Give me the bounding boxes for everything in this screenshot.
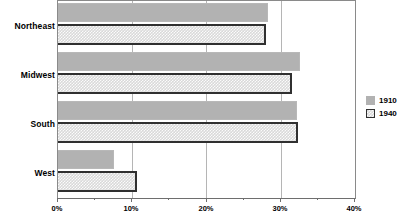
category-label-south: South: [0, 119, 55, 129]
plot-area: [57, 0, 356, 199]
solid-gray-swatch-icon: [366, 96, 375, 105]
bar-west-1940: [58, 171, 137, 192]
category-label-northeast: Northeast: [0, 21, 55, 31]
bar-northeast-1940: [58, 24, 266, 45]
bar-south-1940: [58, 122, 298, 143]
xtick-10: [131, 198, 132, 202]
xtick-label-20: 20%: [186, 204, 226, 213]
bar-south-1910: [58, 101, 297, 120]
xtick-30: [280, 198, 281, 202]
xtick-minor-5: [94, 198, 95, 200]
xtick-label-10: 10%: [111, 204, 151, 213]
xtick-label-30: 30%: [260, 204, 300, 213]
chart-legend: 1910 1940: [366, 94, 397, 120]
legend-item-1910: 1910: [366, 94, 397, 107]
xtick-20: [206, 198, 207, 202]
bar-midwest-1910: [58, 52, 300, 71]
horizontal-bar-chart: Northeast Midwest South West 0% 10% 20% …: [0, 0, 405, 224]
bar-west-1910: [58, 150, 114, 169]
legend-label-1940: 1940: [379, 109, 397, 118]
xtick-minor-35: [317, 198, 318, 200]
xtick-label-0: 0%: [37, 204, 77, 213]
xtick-40: [354, 198, 355, 202]
xtick-label-40: 40%: [334, 204, 374, 213]
legend-item-1940: 1940: [366, 107, 397, 120]
outlined-hatched-swatch-icon: [366, 109, 375, 118]
xtick-minor-25: [243, 198, 244, 200]
xtick-0: [57, 198, 58, 202]
bar-midwest-1940: [58, 73, 292, 94]
xtick-minor-15: [168, 198, 169, 200]
gridline-30-percent: [281, 1, 282, 198]
category-label-midwest: Midwest: [0, 70, 55, 80]
category-label-west: West: [0, 168, 55, 178]
bar-northeast-1910: [58, 3, 268, 22]
legend-label-1910: 1910: [379, 96, 397, 105]
